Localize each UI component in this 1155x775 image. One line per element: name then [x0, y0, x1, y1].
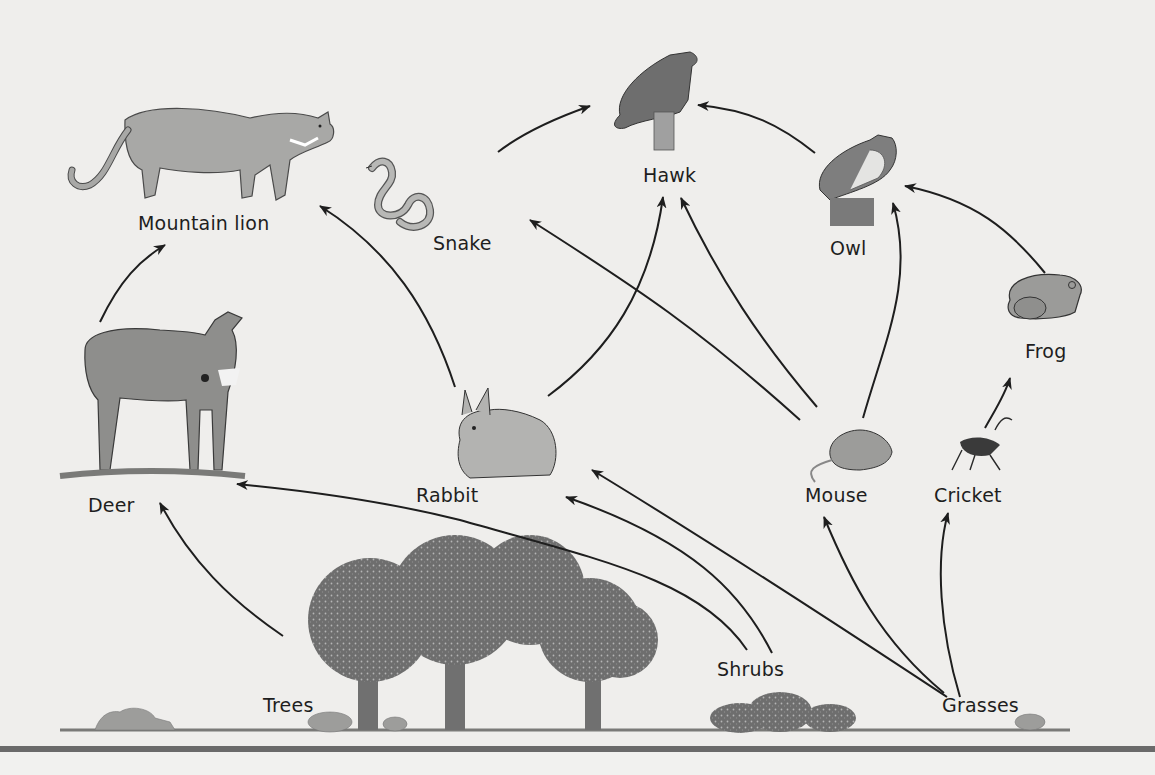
label-trees: Trees: [263, 694, 314, 716]
arrow-grasses-to-mouse: [824, 517, 944, 693]
arrow-cricket-to-frog: [985, 378, 1010, 428]
arrow-frog-to-hawk: [698, 105, 815, 153]
label-mountain-lion: Mountain lion: [138, 212, 269, 234]
label-grasses: Grasses: [942, 694, 1019, 716]
label-deer: Deer: [88, 494, 135, 516]
label-cricket: Cricket: [934, 484, 1002, 506]
arrow-trees-to-deer: [160, 503, 283, 636]
label-owl: Owl: [830, 237, 866, 259]
label-shrubs: Shrubs: [717, 658, 784, 680]
arrow-shrubs-to-rabbit: [566, 497, 772, 653]
label-snake: Snake: [433, 232, 492, 254]
arrow-frog-to-owl: [905, 186, 1045, 273]
label-rabbit: Rabbit: [416, 484, 478, 506]
feeding-arrows: [0, 0, 1155, 775]
arrow-snake-to-hawk: [498, 106, 590, 152]
food-web-diagram: Mountain lion Snake Hawk Owl Frog Deer R…: [0, 0, 1155, 775]
label-mouse: Mouse: [805, 484, 868, 506]
label-hawk: Hawk: [643, 164, 696, 186]
arrow-shrubs-to-deer: [237, 484, 747, 650]
label-frog: Frog: [1025, 340, 1066, 362]
arrow-grasses-to-cricket: [941, 513, 960, 697]
arrow-mouse-to-owl: [863, 203, 901, 418]
arrow-mouse-to-snake: [530, 220, 800, 420]
page-footer-area: [0, 752, 1155, 775]
arrow-deer-to-mountain-lion: [100, 245, 165, 322]
